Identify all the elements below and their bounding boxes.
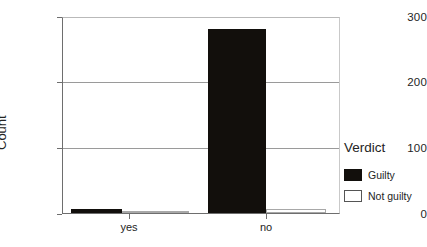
white-swatch-icon [344,190,362,202]
bar-yes-guilty [71,209,122,213]
y-tick-label-200: 200 [369,76,427,88]
bar-no-not-guilty [266,209,326,213]
y-tick-label-300: 300 [369,11,427,23]
x-tick-label-no: no [236,221,296,233]
black-swatch-icon [344,169,362,181]
y-tick-mark-0 [57,214,62,215]
x-tick-mark-no [266,214,267,219]
bar-no-guilty [208,29,266,213]
gridline-100 [63,148,339,149]
y-axis-title: Count [0,115,9,150]
legend-item-not-guilty[interactable]: Not guilty [344,190,427,202]
x-tick-mark-yes [129,214,130,219]
x-tick-label-yes: yes [99,221,159,233]
gridline-200 [63,82,339,83]
legend-item-guilty[interactable]: Guilty [344,169,427,181]
plot-area [62,17,340,214]
bar-chart: Count 300 200 100 0 yes no Verdict Guilt… [0,0,427,247]
legend-label-guilty: Guilty [368,169,395,181]
legend: Verdict Guilty Not guilty [344,140,427,211]
legend-label-not-guilty: Not guilty [368,190,412,202]
legend-title: Verdict [344,140,427,155]
bar-yes-not-guilty [122,211,189,213]
